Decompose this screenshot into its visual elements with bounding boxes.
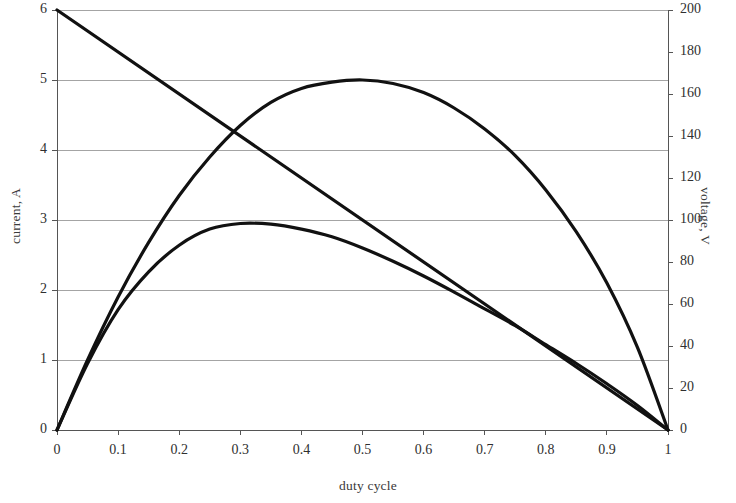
- x-axis-tick-label: 1: [638, 442, 698, 458]
- x-axis-tick-label: 0.7: [455, 442, 515, 458]
- y-axis-right-tick-label: 40: [680, 337, 724, 353]
- y-axis-left-tick-label: 2: [5, 281, 47, 297]
- y-axis-left-tick-label: 0: [5, 421, 47, 437]
- x-axis-tick-label: 0.5: [333, 442, 393, 458]
- y-axis-right-tick-label: 20: [680, 379, 724, 395]
- y-axis-right-tick-label: 140: [680, 127, 724, 143]
- x-axis-tick-label: 0.1: [88, 442, 148, 458]
- y-axis-left-tick-label: 6: [5, 1, 47, 17]
- x-axis-tick-label: 0.8: [516, 442, 576, 458]
- x-axis-tick-label: 0.9: [577, 442, 637, 458]
- x-axis-tick-label: 0.3: [210, 442, 270, 458]
- y-axis-left-title: current, A: [8, 156, 24, 276]
- y-axis-right-tick-label: 60: [680, 295, 724, 311]
- y-axis-left-tick-label: 1: [5, 351, 47, 367]
- x-axis-tick-label: 0: [27, 442, 87, 458]
- x-axis-tick-label: 0.4: [271, 442, 331, 458]
- y-axis-right-tick-label: 160: [680, 85, 724, 101]
- x-axis-title: duty cycle: [0, 478, 736, 494]
- chart-figure: 0123456 020406080100120140160180200 00.1…: [0, 0, 736, 503]
- x-axis-tick-label: 0.2: [149, 442, 209, 458]
- y-axis-left-tick-label: 4: [5, 141, 47, 157]
- y-axis-left-tick-label: 5: [5, 71, 47, 87]
- y-axis-right-tick-label: 180: [680, 43, 724, 59]
- y-axis-right-tick-label: 0: [680, 421, 724, 437]
- y-axis-right-tick-label: 200: [680, 1, 724, 17]
- x-axis-tick-label: 0.6: [394, 442, 454, 458]
- y-axis-right-title: voltage, V: [697, 156, 713, 276]
- chart-plot-area: [0, 0, 736, 503]
